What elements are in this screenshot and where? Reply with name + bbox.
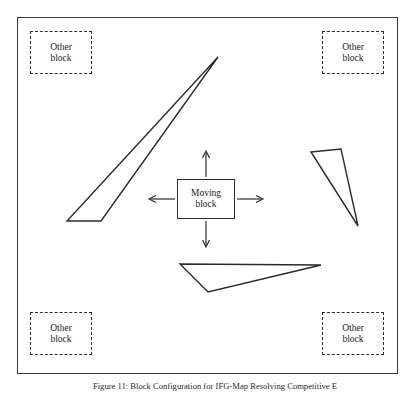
other-block-top-right: Other block bbox=[322, 31, 384, 74]
other-block-bottom-right: Other block bbox=[322, 312, 384, 355]
figure-root: Other block Other block Other block Othe… bbox=[0, 0, 415, 393]
figure-caption: Figure 11: Block Configuration for IFG-M… bbox=[40, 381, 390, 392]
other-block-top-left: Other block bbox=[30, 31, 92, 74]
other-block-label-line1: Other bbox=[342, 323, 364, 334]
other-block-label-line2: block bbox=[342, 53, 363, 64]
other-block-label-line2: block bbox=[50, 53, 71, 64]
other-block-bottom-left: Other block bbox=[30, 312, 92, 355]
other-block-label-line1: Other bbox=[50, 42, 72, 53]
moving-block: Moving block bbox=[177, 179, 235, 219]
other-block-label-line1: Other bbox=[342, 42, 364, 53]
moving-block-label-line2: block bbox=[195, 199, 216, 210]
other-block-label-line1: Other bbox=[50, 323, 72, 334]
other-block-label-line2: block bbox=[342, 334, 363, 345]
moving-block-label-line1: Moving bbox=[191, 188, 221, 199]
other-block-label-line2: block bbox=[50, 334, 71, 345]
